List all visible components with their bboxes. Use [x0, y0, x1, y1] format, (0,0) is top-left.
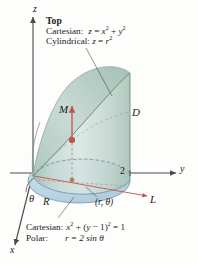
top-cartesian-term2-exp: 2 — [123, 25, 126, 31]
top-annotation-header: Top — [46, 16, 126, 26]
bottom-cartesian-y: y — [86, 222, 90, 232]
bottom-cartesian-minus: − — [93, 222, 98, 232]
bottom-polar-label: Polar: — [26, 233, 48, 243]
label-R: R — [43, 196, 49, 207]
bottom-paren-exp: 2 — [108, 221, 111, 227]
bottom-annotation-block: Cartesian:x2 + (y − 1)2 = 1 Polar:r = 2 … — [26, 222, 125, 243]
bottom-cartesian-x-exp: 2 — [70, 221, 73, 227]
top-cylindrical-lhs: z — [92, 36, 96, 46]
bottom-cartesian-equals: = 1 — [113, 222, 125, 232]
bottom-cartesian-label: Cartesian: — [26, 222, 63, 232]
axis-label-z: z — [33, 4, 37, 15]
bottom-polar-row: Polar:r = 2 sin θ — [26, 234, 125, 244]
top-cartesian-lhs: z — [88, 26, 92, 36]
axis-label-y: y — [180, 164, 184, 175]
top-cylindrical-row: Cylindrical: z = r2 — [46, 37, 126, 47]
bottom-cartesian-plus: + — [76, 222, 81, 232]
label-theta: θ — [29, 193, 34, 204]
label-L: L — [150, 194, 156, 206]
label-D: D — [132, 107, 140, 119]
top-cartesian-term1-exp: 2 — [106, 25, 109, 31]
math-figure-paraboloid: Top Cartesian:z = x2 + y2 Cylindrical: z… — [0, 0, 198, 263]
top-annotation-block: Top Cartesian:z = x2 + y2 Cylindrical: z… — [46, 16, 126, 47]
axis-label-x: x — [10, 245, 14, 256]
top-cylindrical-rel: = — [98, 36, 103, 46]
tick-label-2: 2 — [120, 166, 125, 176]
top-cartesian-rel: = — [94, 26, 99, 36]
label-polar-point: (r, θ) — [95, 198, 113, 208]
top-cartesian-label: Cartesian: — [46, 26, 83, 36]
bottom-polar-eq: r = 2 sin θ — [65, 233, 104, 243]
bottom-cartesian-row: Cartesian:x2 + (y − 1)2 = 1 — [26, 223, 125, 233]
top-cylindrical-exp: 2 — [109, 35, 112, 41]
top-cylindrical-label: Cylindrical: — [46, 36, 90, 46]
label-M: M — [59, 104, 68, 116]
